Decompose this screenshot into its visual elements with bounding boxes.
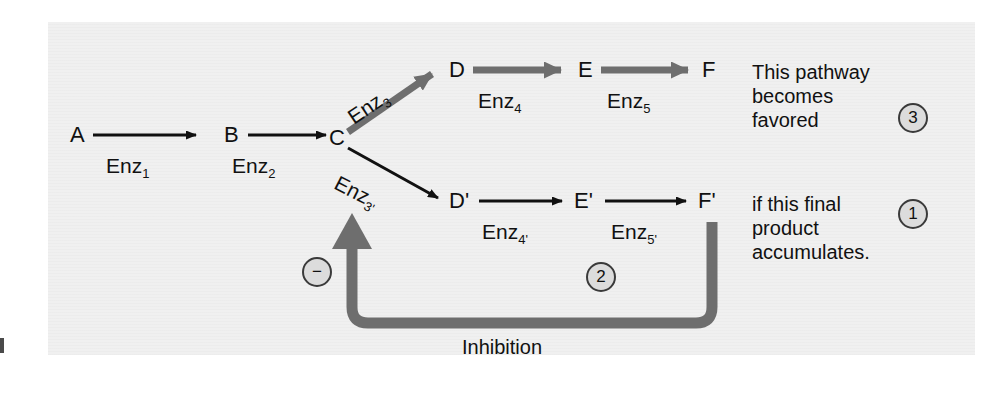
annotation-pathway-favored: This pathway becomes favored bbox=[752, 60, 902, 132]
enzyme-base: Enz bbox=[106, 154, 142, 177]
node-f: F bbox=[702, 59, 715, 81]
enzyme-base: Enz bbox=[482, 220, 518, 243]
figure-canvas: A B C D E F D' E' F' Enz1 Enz2 Enz3 Enz3… bbox=[0, 0, 994, 399]
enzyme-label-enz4: Enz4 bbox=[478, 90, 521, 111]
enzyme-label-enz5: Enz5 bbox=[607, 90, 650, 111]
enzyme-label-enz1: Enz1 bbox=[106, 155, 149, 176]
node-e: E bbox=[578, 59, 593, 81]
enzyme-subscript: 5 bbox=[643, 101, 650, 116]
inhibition-feedback-path bbox=[352, 222, 712, 323]
step-marker-1: 1 bbox=[898, 199, 928, 229]
inhibition-minus-marker: − bbox=[302, 257, 332, 287]
node-d-prime: D' bbox=[449, 190, 469, 212]
enzyme-subscript: 4' bbox=[518, 232, 528, 247]
inhibition-label: Inhibition bbox=[462, 337, 542, 357]
node-c: C bbox=[329, 127, 345, 149]
enzyme-label-enz5-prime: Enz5' bbox=[611, 221, 657, 242]
node-b: B bbox=[224, 124, 239, 146]
enzyme-label-enz2: Enz2 bbox=[232, 155, 275, 176]
enzyme-base: Enz bbox=[232, 154, 268, 177]
node-e-prime: E' bbox=[574, 190, 593, 212]
enzyme-subscript: 2 bbox=[268, 166, 275, 181]
enzyme-base: Enz bbox=[611, 220, 647, 243]
enzyme-subscript: 1 bbox=[142, 166, 149, 181]
enzyme-subscript: 5' bbox=[647, 232, 657, 247]
enzyme-base: Enz bbox=[478, 89, 514, 112]
step-marker-3: 3 bbox=[898, 103, 928, 133]
step-marker-2: 2 bbox=[586, 262, 616, 292]
node-d: D bbox=[449, 59, 465, 81]
enzyme-label-enz4-prime: Enz4' bbox=[482, 221, 528, 242]
node-a: A bbox=[70, 124, 85, 146]
node-f-prime: F' bbox=[698, 190, 716, 212]
enzyme-subscript: 4 bbox=[514, 101, 521, 116]
enzyme-base: Enz bbox=[607, 89, 643, 112]
inhibition-arrowhead bbox=[332, 213, 372, 249]
annotation-product-accumulates: if this final product accumulates. bbox=[752, 192, 902, 264]
